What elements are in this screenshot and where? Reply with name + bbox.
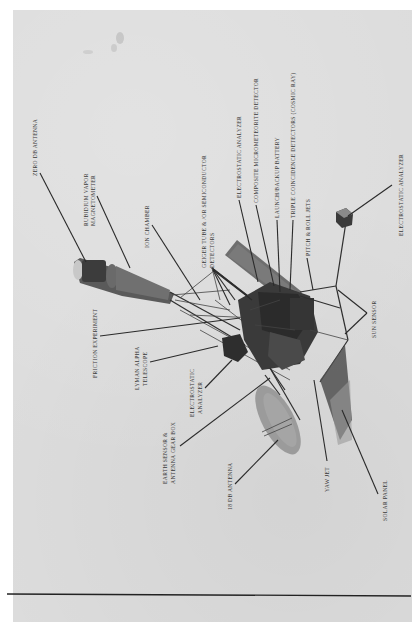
label-zero-db-antenna: ZERO DB ANTENNA xyxy=(32,119,38,176)
label-lyman-alpha-2: TELESCOPE xyxy=(142,352,148,386)
spacecraft-diagram: ZERO DB ANTENNA RUBIDIUM VAPOR MAGNETOME… xyxy=(0,0,418,629)
page-rule-line xyxy=(7,594,411,596)
label-electrostatic-analyzer-3-2: ANALYZER xyxy=(197,382,203,414)
label-sun-sensor: SUN SENSOR xyxy=(371,300,377,338)
label-electrostatic-analyzer-3: ELECTROSTATIC xyxy=(189,369,195,417)
label-lyman-alpha: LYMAN ALPHA xyxy=(134,346,140,390)
label-earth-sensor-2: ANTENNA GEAR BOX xyxy=(170,422,176,484)
label-backup-battery: LAUNCH/BACKUP BATTERY xyxy=(274,137,280,218)
label-geiger-tube-2: DETECTORS xyxy=(209,233,215,268)
label-yaw-jet: YAW JET xyxy=(324,467,330,492)
label-ion-chamber: ION CHAMBER xyxy=(144,205,150,248)
label-18-db-antenna: 18 DB ANTENNA xyxy=(227,463,233,510)
label-earth-sensor: EARTH SENSOR & xyxy=(162,432,168,484)
label-pitch-roll-jets: PITCH & ROLL JETS xyxy=(305,199,311,256)
label-triple-coincidence: TRIPLE COINCIDENCE DETECTORS (COSMIC RAY… xyxy=(290,73,297,219)
label-solar-panel: SOLAR PANEL xyxy=(382,480,388,521)
labels: ZERO DB ANTENNA RUBIDIUM VAPOR MAGNETOME… xyxy=(32,73,404,522)
paper-smudge xyxy=(83,32,124,54)
label-rubidium-magnetometer-2: MAGNETOMETER xyxy=(90,175,96,226)
label-micrometeorite-detector: COMPOSITE MICROMETEORITE DETECTOR xyxy=(253,78,259,203)
label-electrostatic-analyzer-1: ELECTROSTATIC ANALYZER xyxy=(236,116,242,198)
label-geiger-tube: GEIGER TUBE & /OR SEMICONDUCTOR xyxy=(201,155,207,268)
label-rubidium-magnetometer: RUBIDIUM VAPOR xyxy=(83,173,89,226)
label-friction-experiment: FRICTION EXPERIMENT xyxy=(92,308,98,378)
label-electrostatic-analyzer-2: ELECTROSTATIC ANALYZER xyxy=(398,154,404,236)
